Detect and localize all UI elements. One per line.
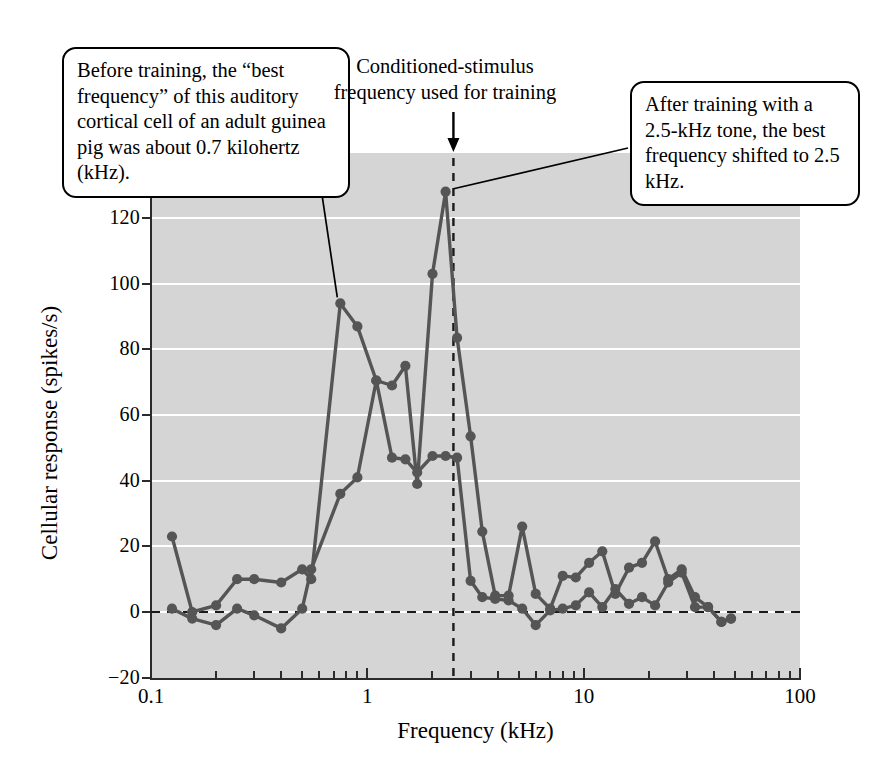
x-axis-tick (765, 671, 767, 679)
x-axis-tick (431, 671, 433, 679)
gridline-y (152, 611, 800, 613)
x-axis-tick (150, 668, 152, 679)
y-axis-tick-label: 100 (60, 273, 140, 293)
callout-after-training: After training with a 2.5-kHz tone, the … (630, 81, 860, 206)
figure-root: −200204060801001200.1110100 Cellular res… (0, 0, 872, 780)
gridline-y (152, 217, 800, 219)
x-axis-tick (366, 668, 368, 679)
x-axis-tick (518, 671, 520, 679)
gridline-y (152, 283, 800, 285)
y-axis-tick (142, 414, 151, 416)
y-axis-tick-label-wrap: 100 (60, 273, 140, 293)
x-axis-tick (778, 671, 780, 679)
x-axis-tick-label: 1 (327, 686, 407, 707)
cs-arrow-head (447, 138, 459, 152)
y-axis-tick-label: 20 (60, 535, 140, 555)
y-axis-tick (142, 217, 151, 219)
x-axis-tick (497, 671, 499, 679)
y-axis-tick-label: 80 (60, 338, 140, 358)
x-axis-title: Frequency (kHz) (150, 718, 801, 744)
x-axis-tick-label: 10 (544, 686, 624, 707)
x-axis-tick (583, 668, 585, 679)
x-axis-tick (648, 671, 650, 679)
x-axis-tick (253, 671, 255, 679)
y-axis-tick-label-wrap: −20 (60, 667, 140, 687)
x-axis-tick (318, 671, 320, 679)
x-axis-line (150, 678, 801, 680)
x-axis-tick (280, 671, 282, 679)
x-axis-tick (345, 671, 347, 679)
y-axis-title: Cellular response (spikes/s) (37, 243, 63, 623)
x-axis-tick (686, 671, 688, 679)
y-axis-tick (142, 480, 151, 482)
callout-before-training: Before training, the “best frequency” of… (62, 47, 350, 198)
y-axis-tick (142, 348, 151, 350)
y-axis-tick-label-wrap: 20 (60, 535, 140, 555)
y-axis-tick-label: 0 (60, 601, 140, 621)
y-axis-tick-label-wrap: 0 (60, 601, 140, 621)
y-axis-tick-label: 120 (60, 207, 140, 227)
x-axis-tick (470, 671, 472, 679)
gridline-y (152, 480, 800, 482)
x-axis-tick (789, 671, 791, 679)
x-axis-tick-label: 100 (760, 686, 840, 707)
x-axis-tick (356, 671, 358, 679)
x-axis-tick (333, 671, 335, 679)
y-axis-tick-label: −20 (60, 667, 140, 687)
y-axis-tick (142, 283, 151, 285)
y-axis-tick (142, 611, 151, 613)
y-axis-tick-label-wrap: 80 (60, 338, 140, 358)
y-axis-tick-label: 60 (60, 404, 140, 424)
x-axis-tick (535, 671, 537, 679)
y-axis-tick-label-wrap: 60 (60, 404, 140, 424)
x-axis-tick (734, 671, 736, 679)
x-axis-tick (549, 671, 551, 679)
x-axis-tick (301, 671, 303, 679)
x-axis-tick (799, 668, 801, 679)
x-axis-tick (215, 671, 217, 679)
gridline-y (152, 348, 800, 350)
x-axis-tick (751, 671, 753, 679)
x-axis-tick (573, 671, 575, 679)
y-axis-tick-label-wrap: 40 (60, 470, 140, 490)
y-axis-line (150, 153, 152, 680)
y-axis-tick-label-wrap: 120 (60, 207, 140, 227)
gridline-y (152, 545, 800, 547)
gridline-y (152, 414, 800, 416)
callout-conditioned-stimulus: Conditioned-stimulus frequency used for … (320, 54, 570, 105)
y-axis-tick-label: 40 (60, 470, 140, 490)
x-axis-tick-label: 0.1 (111, 686, 191, 707)
x-axis-tick (713, 671, 715, 679)
y-axis-tick (142, 545, 151, 547)
x-axis-tick (562, 671, 564, 679)
